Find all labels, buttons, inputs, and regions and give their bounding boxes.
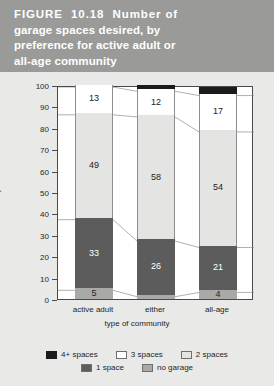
- legend-swatch: [116, 351, 127, 359]
- segment-value-label: 49: [89, 161, 99, 170]
- bar-all-age[interactable]: 4215417: [199, 87, 237, 299]
- bar-segment[interactable]: [137, 295, 175, 299]
- connector-line: [113, 290, 137, 296]
- x-axis-tick-label: active adult: [73, 305, 113, 314]
- bar-segment[interactable]: 54: [199, 130, 237, 246]
- segment-value-label: 17: [213, 107, 223, 116]
- bar-segment[interactable]: 13: [75, 85, 113, 113]
- y-axis-tick-label: 20: [40, 253, 49, 262]
- bar-segment[interactable]: 33: [75, 218, 113, 289]
- y-axis-tick-mark: [52, 300, 57, 301]
- figure-title-line-4: all-age community: [14, 54, 264, 70]
- connector-line: [113, 115, 137, 117]
- segment-value-label: 4: [215, 290, 220, 299]
- segment-value-label: 21: [213, 263, 223, 272]
- bar-segment[interactable]: 5: [75, 288, 113, 299]
- legend-swatch: [142, 364, 153, 372]
- legend-label: 4+ spaces: [61, 350, 98, 359]
- segment-value-label: 54: [213, 183, 223, 192]
- figure-title-banner: FIGURE 10.18 Number of garage spaces des…: [0, 0, 274, 72]
- legend-label: 1 space: [96, 363, 124, 372]
- connector-line: [113, 220, 137, 241]
- bar-segment[interactable]: [199, 87, 237, 93]
- legend-item[interactable]: 2 spaces: [181, 350, 228, 359]
- legend-label: 3 spaces: [131, 350, 163, 359]
- legend-item[interactable]: 3 spaces: [116, 350, 163, 359]
- x-axis-tick-label: either: [145, 305, 165, 314]
- legend-swatch: [46, 351, 57, 359]
- bar-segment[interactable]: 17: [199, 94, 237, 130]
- y-axis-tick-label: 80: [40, 124, 49, 133]
- y-axis-tick-label: 0: [45, 296, 49, 305]
- segment-value-label: 26: [151, 262, 161, 271]
- bar-either[interactable]: 265812: [137, 87, 175, 299]
- legend-swatch: [81, 364, 92, 372]
- bar-segment[interactable]: 58: [137, 115, 175, 239]
- segment-value-label: 33: [89, 249, 99, 258]
- legend-label: no garage: [157, 363, 193, 372]
- connector-line: [175, 292, 199, 296]
- y-axis-tick-label: 40: [40, 210, 49, 219]
- y-axis-tick-label: 70: [40, 146, 49, 155]
- segment-value-label: 58: [151, 173, 161, 182]
- y-axis-title: percent: [0, 165, 1, 192]
- connector-line: [113, 87, 137, 91]
- y-axis-tick-label: 30: [40, 231, 49, 240]
- legend-swatch: [181, 351, 192, 359]
- legend-label: 2 spaces: [196, 350, 228, 359]
- legend-item[interactable]: 4+ spaces: [46, 350, 98, 359]
- legend: 4+ spaces3 spaces2 spaces 1 spaceno gara…: [0, 350, 274, 376]
- y-axis: 1009080706050403020100: [0, 72, 57, 344]
- y-axis-tick-label: 60: [40, 167, 49, 176]
- segment-value-label: 12: [151, 98, 161, 107]
- connector-line: [175, 241, 199, 247]
- figure-title-line-2: garage spaces desired, by: [14, 23, 264, 39]
- connector-line: [175, 117, 199, 132]
- connector-line: [175, 91, 199, 95]
- legend-item[interactable]: 1 space: [81, 363, 124, 372]
- chart-panel: 1009080706050403020100 percent 533491326…: [0, 72, 274, 344]
- y-axis-tick-label: 10: [40, 274, 49, 283]
- plot-area: 53349132658124215417: [57, 86, 253, 300]
- y-axis-tick-label: 90: [40, 103, 49, 112]
- legend-row-2: 1 spaceno garage: [0, 363, 274, 372]
- segment-value-label: 5: [91, 289, 96, 298]
- segment-value-label: 13: [89, 94, 99, 103]
- legend-item[interactable]: no garage: [142, 363, 193, 372]
- bar-segment[interactable]: 49: [75, 113, 113, 218]
- bar-segment[interactable]: 12: [137, 89, 175, 115]
- figure-title-line-3: preference for active adult or: [14, 38, 264, 54]
- figure-title-line-1: FIGURE 10.18 Number of: [14, 7, 264, 23]
- bar-segment[interactable]: 21: [199, 246, 237, 291]
- x-axis-title: type of community: [0, 319, 274, 328]
- y-axis-tick-label: 100: [36, 82, 49, 91]
- bar-segment[interactable]: 26: [137, 239, 175, 295]
- x-axis-tick-label: all-age: [205, 305, 229, 314]
- bar-segment[interactable]: [137, 85, 175, 89]
- bar-active-adult[interactable]: 5334913: [75, 87, 113, 299]
- legend-row-1: 4+ spaces3 spaces2 spaces: [0, 350, 274, 359]
- bar-segment[interactable]: 4: [199, 290, 237, 299]
- y-axis-tick-label: 50: [40, 189, 49, 198]
